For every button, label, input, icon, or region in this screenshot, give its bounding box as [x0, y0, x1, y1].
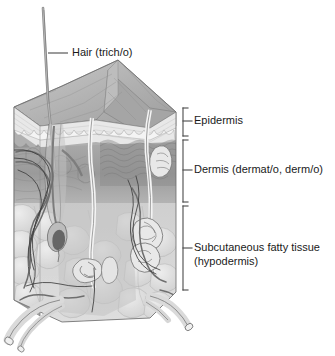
layer-label-subcutaneous-line1: Subcutaneous fatty tissue	[194, 241, 320, 254]
epidermis-bracket	[183, 108, 192, 136]
layer-label-subcutaneous-line2: (hypodermis)	[194, 255, 258, 268]
skin-cross-section-illustration	[0, 0, 335, 356]
sweat-gland-center	[73, 259, 102, 283]
subcutaneous-bracket	[183, 206, 192, 290]
layer-label-epidermis: Epidermis	[194, 114, 243, 127]
protruding-blood-vessels	[3, 300, 62, 353]
sensory-receptor-oval	[102, 257, 118, 284]
layer-label-dermis: Dermis (dermat/o, derm/o)	[194, 163, 323, 176]
dermis-bracket	[183, 140, 192, 202]
callout-label-hair: Hair (trich/o)	[72, 46, 133, 59]
skin-anatomy-figure: Hair (trich/o) Epidermis Dermis (dermat/…	[0, 0, 335, 356]
